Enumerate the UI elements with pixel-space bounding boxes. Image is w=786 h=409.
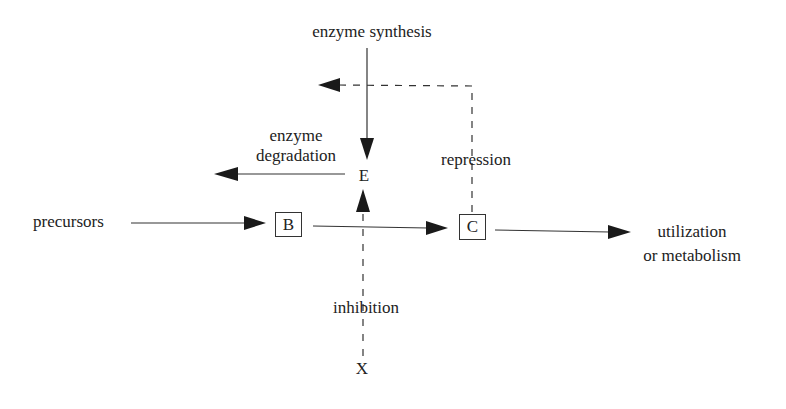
node-c-box: C xyxy=(459,214,486,240)
node-e: E xyxy=(359,166,369,185)
synthesis-arrow xyxy=(360,48,374,160)
node-c-label: C xyxy=(467,217,478,236)
precursors-to-b-arrow xyxy=(131,216,266,230)
node-x: X xyxy=(356,359,368,378)
repression-dashed-arrow xyxy=(318,78,472,212)
repression-label: repression xyxy=(441,150,511,169)
c-to-utilization-arrow xyxy=(495,225,631,239)
utilization-label-line1: utilization xyxy=(658,222,727,241)
b-to-c-arrow xyxy=(313,221,448,235)
enzyme-degradation-label-line2: degradation xyxy=(256,146,336,165)
node-b-box: B xyxy=(275,212,302,237)
node-b-label: B xyxy=(283,215,294,234)
degradation-arrow xyxy=(214,167,345,181)
precursors-label: precursors xyxy=(33,212,104,231)
diagram-edges xyxy=(0,0,786,409)
utilization-label-line2: or metabolism xyxy=(643,246,741,265)
enzyme-degradation-label-line1: enzyme xyxy=(270,126,323,145)
inhibition-label: inhibition xyxy=(333,298,399,317)
enzyme-synthesis-label: enzyme synthesis xyxy=(312,22,431,41)
inhibition-dashed-arrow xyxy=(356,189,370,356)
enzyme-regulation-diagram: enzyme synthesis enzyme degradation E re… xyxy=(0,0,786,409)
